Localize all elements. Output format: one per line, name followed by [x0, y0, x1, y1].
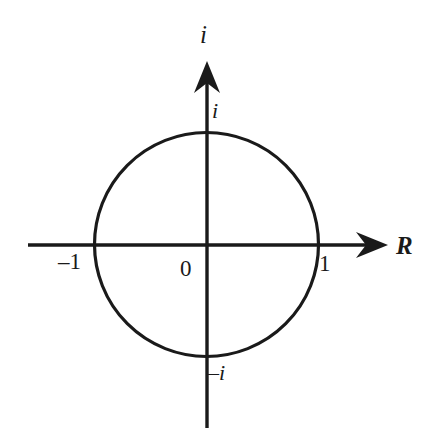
- point-label-i: i: [212, 100, 218, 122]
- complex-plane-figure: i R i –i –1 0 1: [0, 0, 440, 446]
- real-axis-label: R: [396, 233, 413, 258]
- point-label-negative-i: –i: [208, 362, 225, 384]
- tick-label-negative-one: –1: [58, 250, 81, 273]
- tick-label-one: 1: [319, 252, 331, 275]
- imaginary-axis-label: i: [200, 22, 207, 47]
- origin-label: 0: [180, 257, 192, 280]
